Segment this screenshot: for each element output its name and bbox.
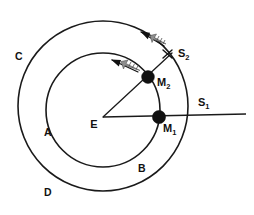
inner-orbit-circle bbox=[46, 53, 160, 167]
motion-arrow-outer-head bbox=[141, 32, 151, 40]
label-centre-e: E bbox=[90, 118, 97, 130]
label-body-m2: M2 bbox=[157, 76, 170, 91]
diagram-canvas: E M1 M2 S1 S2 A B C D bbox=[0, 0, 254, 215]
arc-label-d: D bbox=[44, 186, 52, 198]
arc-label-a: A bbox=[44, 126, 52, 138]
label-sight-point-s1: S1 bbox=[198, 96, 210, 111]
motion-arrow-inner-head bbox=[111, 60, 121, 67]
sight-line-s1 bbox=[103, 114, 246, 117]
label-sight-point-s2: S2 bbox=[178, 47, 190, 62]
outer-orbit-circle bbox=[18, 21, 188, 191]
arc-label-c: C bbox=[15, 50, 23, 62]
orbital-diagram: E M1 M2 S1 S2 A B C D bbox=[0, 0, 254, 215]
motion-arrow-outer bbox=[141, 32, 167, 47]
arc-label-b: B bbox=[138, 162, 146, 174]
body-m2-dot bbox=[142, 71, 155, 84]
motion-arrow-inner bbox=[111, 60, 140, 73]
label-body-m1: M1 bbox=[163, 122, 176, 137]
